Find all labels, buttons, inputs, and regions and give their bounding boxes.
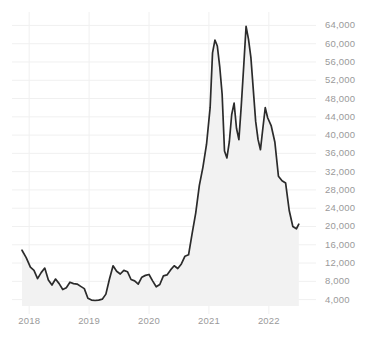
y-axis-tick-label: 48,000 bbox=[325, 94, 355, 104]
x-axis-tick-label: 2019 bbox=[78, 316, 100, 326]
y-axis-tick-label: 16,000 bbox=[325, 240, 355, 250]
y-axis-tick-label: 12,000 bbox=[325, 258, 355, 268]
x-axis-tick-label: 2018 bbox=[18, 316, 40, 326]
y-axis-tick-label: 64,000 bbox=[325, 20, 355, 30]
y-axis-tick-label: 40,000 bbox=[325, 130, 355, 140]
y-axis-tick-label: 36,000 bbox=[325, 148, 355, 158]
x-axis-tick-label: 2022 bbox=[258, 316, 280, 326]
chart-canvas bbox=[0, 0, 377, 350]
y-axis-tick-label: 44,000 bbox=[325, 112, 355, 122]
series-area-fill bbox=[22, 26, 299, 306]
y-axis-tick-label: 60,000 bbox=[325, 39, 355, 49]
price-line-chart: 4,0008,00012,00016,00020,00024,00028,000… bbox=[0, 0, 377, 350]
y-axis-tick-label: 56,000 bbox=[325, 57, 355, 67]
x-axis-tick-label: 2020 bbox=[138, 316, 160, 326]
y-axis-tick-label: 8,000 bbox=[325, 276, 350, 286]
y-axis-tick-label: 32,000 bbox=[325, 167, 355, 177]
y-axis-tick-label: 20,000 bbox=[325, 221, 355, 231]
y-axis-tick-label: 4,000 bbox=[325, 295, 350, 305]
x-axis-tick-label: 2021 bbox=[198, 316, 220, 326]
y-axis-tick-label: 52,000 bbox=[325, 75, 355, 85]
y-axis-tick-label: 28,000 bbox=[325, 185, 355, 195]
y-axis-tick-label: 24,000 bbox=[325, 203, 355, 213]
